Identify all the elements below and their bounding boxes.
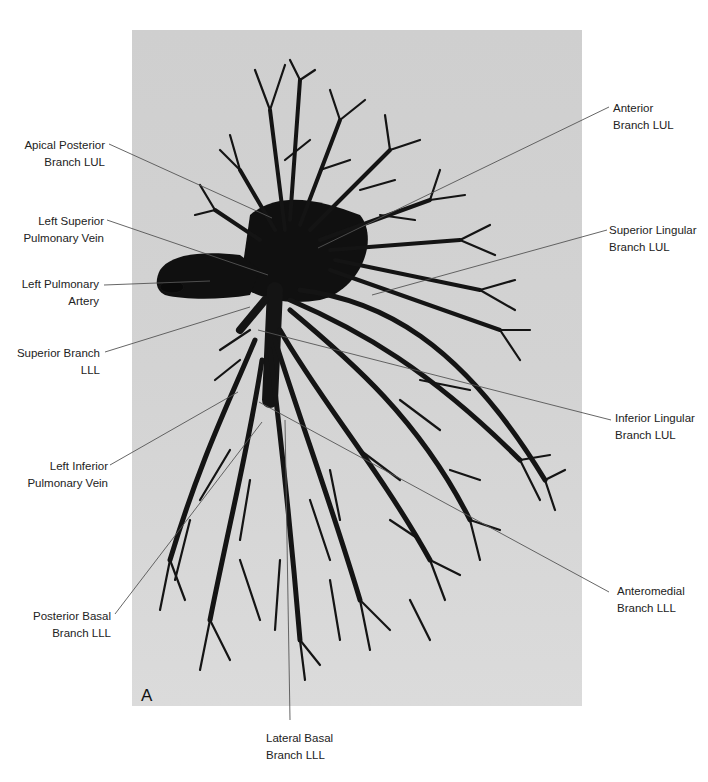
label-anterior-branch-lul: Anterior Branch LUL — [613, 100, 674, 134]
label-apical-posterior-branch-lul: Apical Posterior Branch LUL — [24, 137, 105, 171]
anatomy-figure: Apical Posterior Branch LUL Left Superio… — [0, 0, 708, 782]
label-left-superior-pulmonary-vein: Left Superior Pulmonary Vein — [23, 213, 104, 247]
vascular-cast-illustration — [0, 0, 708, 782]
label-posterior-basal-branch-lll: Posterior Basal Branch LLL — [33, 608, 111, 642]
label-superior-branch-lll: Superior Branch LLL — [17, 345, 100, 379]
label-superior-lingular-branch-lul: Superior Lingular Branch LUL — [609, 222, 697, 256]
label-anteromedial-branch-lll: Anteromedial Branch LLL — [617, 583, 685, 617]
leader-lines — [104, 107, 611, 720]
label-left-inferior-pulmonary-vein: Left Inferior Pulmonary Vein — [27, 458, 108, 492]
label-inferior-lingular-branch-lul: Inferior Lingular Branch LUL — [615, 410, 695, 444]
label-lateral-basal-branch-lll: Lateral Basal Branch LLL — [266, 730, 333, 764]
panel-letter: A — [141, 686, 152, 706]
label-left-pulmonary-artery: Left Pulmonary Artery — [22, 276, 99, 310]
